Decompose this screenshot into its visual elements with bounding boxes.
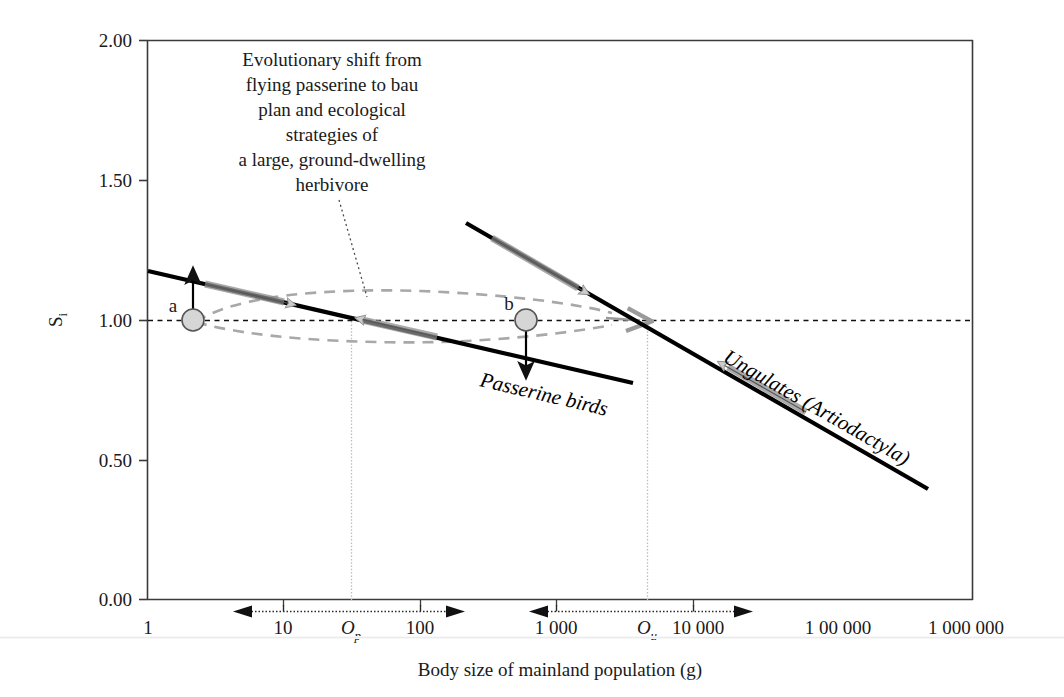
page-divider [0, 636, 1064, 639]
y-tick-2: 2.00 [99, 30, 132, 51]
range-bar-ungulate [529, 605, 753, 618]
annotation-line-2: flying passerine to bau [246, 74, 419, 95]
datapoint-b-marker[interactable] [515, 309, 537, 331]
annotation-line-1: Evolutionary shift from [242, 49, 422, 70]
threshold-gridlines [352, 318, 648, 600]
series-ungulates [466, 223, 928, 489]
chart-canvas: 2.00 1.50 1.00 0.50 0.00 Si [0, 0, 1064, 697]
x-tick-100: 100 [406, 617, 435, 638]
datapoint-b-label: b [504, 293, 514, 314]
x-tick-ou-base: O [637, 617, 651, 638]
svg-text:Si: Si [45, 313, 70, 328]
x-tick-1: 1 [143, 617, 153, 638]
y-tick-1: 1.00 [99, 310, 132, 331]
x-axis-ticks [284, 600, 694, 607]
annotation-line-5: a large, ground-dwelling [239, 149, 426, 170]
x-tick-10000: 10 000 [672, 617, 724, 638]
y-tick-0-5: 0.50 [99, 450, 132, 471]
y-axis-tick-labels: 2.00 1.50 1.00 0.50 0.00 [99, 30, 132, 610]
y-axis-title-sub: i [55, 313, 70, 317]
x-tick-1000: 1 000 [535, 617, 578, 638]
y-tick-1-5: 1.50 [99, 170, 132, 191]
range-bar-passerine [233, 605, 465, 618]
x-tick-op-base: O [341, 617, 355, 638]
y-axis-title-base: S [45, 317, 66, 328]
x-axis-title: Body size of mainland population (g) [418, 659, 702, 681]
figure-root: 2.00 1.50 1.00 0.50 0.00 Si [0, 0, 1064, 697]
y-axis-title: Si [45, 313, 70, 328]
annotation-line-4: strategies of [286, 124, 379, 145]
series-label-ungulates: Ungulates (Artiodactyla) [720, 345, 915, 470]
datapoint-a-marker[interactable] [182, 309, 204, 331]
x-tick-ou: Ou [637, 617, 658, 643]
y-axis-ticks [139, 41, 148, 600]
x-tick-100000: 1 00 000 [805, 617, 872, 638]
annotation-line-3: plan and ecological [258, 99, 406, 120]
x-tick-1000000: 1 000 000 [928, 617, 1004, 638]
x-tick-op: Op [341, 617, 362, 643]
x-axis-tick-labels: 1 10 Op 100 1 000 Ou 10 000 1 00 000 1 0… [143, 617, 1004, 643]
annotation-leader-line [339, 200, 367, 297]
annotation-evolutionary-shift: Evolutionary shift from flying passerine… [239, 49, 426, 297]
datapoint-a-label: a [169, 295, 178, 316]
y-tick-0: 0.00 [99, 589, 132, 610]
x-tick-10: 10 [274, 617, 293, 638]
annotation-line-6: herbivore [296, 174, 369, 195]
